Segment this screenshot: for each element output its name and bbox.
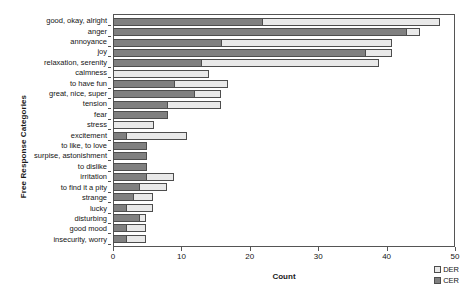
x-axis-tick-label: 40 bbox=[382, 252, 391, 261]
bar-segment-der bbox=[201, 59, 379, 67]
y-axis-tick-label: irritation bbox=[0, 173, 111, 181]
bar-segment-cer bbox=[113, 18, 263, 26]
bar-segment-cer bbox=[113, 173, 147, 181]
bar-segment-der bbox=[262, 18, 440, 26]
y-axis-tick-mark bbox=[108, 77, 111, 78]
y-axis-tick-label: good, okay, alright bbox=[0, 17, 111, 25]
y-axis-tick-label: to have fun bbox=[0, 80, 111, 88]
legend-swatch bbox=[434, 266, 441, 273]
x-axis-ticks: 01020304050 bbox=[113, 247, 455, 269]
bar-segment-cer bbox=[113, 224, 127, 232]
bar-segment-der bbox=[406, 28, 420, 36]
y-axis-tick-mark bbox=[108, 223, 111, 224]
bar-row bbox=[114, 28, 454, 36]
bar-segment-cer bbox=[113, 204, 127, 212]
y-axis-tick-label: good mood bbox=[0, 225, 111, 233]
y-axis-tick-label: disturbing bbox=[0, 215, 111, 223]
legend-label: DER bbox=[443, 265, 459, 274]
x-axis-tick-label: 0 bbox=[111, 252, 115, 261]
bar-row bbox=[114, 39, 454, 47]
bar-row bbox=[114, 183, 454, 191]
bar-row bbox=[114, 152, 454, 160]
plot-area bbox=[113, 14, 455, 247]
y-axis-tick-mark bbox=[108, 25, 111, 26]
x-axis-tick-mark bbox=[455, 247, 456, 251]
bar-segment-cer bbox=[113, 214, 140, 222]
y-axis-tick-labels: good, okay, alrightangerannoyancejoyrela… bbox=[0, 14, 111, 247]
legend-swatch bbox=[434, 277, 441, 284]
y-axis-tick-mark bbox=[108, 36, 111, 37]
legend: DERCER bbox=[434, 265, 459, 285]
x-axis-tick-mark bbox=[181, 247, 182, 251]
legend-item: DER bbox=[434, 265, 459, 274]
bar-chart: Free Response Categories good, okay, alr… bbox=[0, 0, 467, 293]
y-axis-tick-mark bbox=[108, 129, 111, 130]
y-axis-tick-label: surpise, astonishment bbox=[0, 152, 111, 160]
legend-item: CER bbox=[434, 276, 459, 285]
y-axis-tick-label: joy bbox=[0, 48, 111, 56]
y-axis-tick-label: insecurity, worry bbox=[0, 236, 111, 244]
x-axis-tick-mark bbox=[113, 247, 114, 251]
y-axis-tick-mark bbox=[108, 140, 111, 141]
bar-segment-der bbox=[221, 39, 392, 47]
bar-row bbox=[114, 111, 454, 119]
y-axis-tick-label: to like, to love bbox=[0, 142, 111, 150]
x-axis-tick-label: 20 bbox=[245, 252, 254, 261]
y-axis-tick-mark bbox=[108, 119, 111, 120]
y-axis-tick-mark bbox=[108, 181, 111, 182]
bar-segment-der bbox=[139, 183, 166, 191]
bar-row bbox=[114, 193, 454, 201]
bar-segment-cer bbox=[113, 152, 147, 160]
bar-rows bbox=[114, 15, 454, 246]
bar-row bbox=[114, 70, 454, 78]
x-axis-tick-label: 50 bbox=[451, 252, 460, 261]
y-axis-tick-mark bbox=[108, 202, 111, 203]
bar-row bbox=[114, 80, 454, 88]
x-axis-tick-label: 10 bbox=[177, 252, 186, 261]
y-axis-tick-mark bbox=[108, 67, 111, 68]
bar-row bbox=[114, 173, 454, 181]
y-axis-tick-mark bbox=[108, 244, 111, 245]
bar-segment-cer bbox=[113, 142, 147, 150]
bar-row bbox=[114, 214, 454, 222]
y-axis-tick-label: to dislike bbox=[0, 163, 111, 171]
x-axis-title: Count bbox=[113, 272, 455, 281]
bar-segment-cer bbox=[113, 111, 168, 119]
y-axis-tick-mark bbox=[108, 171, 111, 172]
bar-segment-der bbox=[194, 90, 221, 98]
bar-segment-der bbox=[139, 214, 146, 222]
bar-segment-der bbox=[174, 80, 229, 88]
y-axis-tick-mark bbox=[108, 98, 111, 99]
bar-row bbox=[114, 132, 454, 140]
y-axis-tick-mark bbox=[108, 46, 111, 47]
bar-segment-der bbox=[113, 70, 209, 78]
bar-segment-der bbox=[133, 193, 154, 201]
bar-segment-der bbox=[365, 49, 392, 57]
bar-row bbox=[114, 163, 454, 171]
y-axis-tick-label: tension bbox=[0, 100, 111, 108]
y-axis-tick-mark bbox=[108, 88, 111, 89]
bar-row bbox=[114, 101, 454, 109]
bar-segment-cer bbox=[113, 39, 222, 47]
bar-row bbox=[114, 49, 454, 57]
bar-row bbox=[114, 235, 454, 243]
bar-segment-cer bbox=[113, 49, 366, 57]
bar-segment-cer bbox=[113, 101, 168, 109]
bar-segment-cer bbox=[113, 183, 140, 191]
y-axis-tick-mark bbox=[108, 213, 111, 214]
y-axis-tick-label: strange bbox=[0, 194, 111, 202]
x-axis-tick-label: 30 bbox=[314, 252, 323, 261]
bar-segment-der bbox=[126, 224, 147, 232]
bar-row bbox=[114, 121, 454, 129]
bar-segment-cer bbox=[113, 193, 134, 201]
bar-segment-der bbox=[126, 132, 188, 140]
bar-segment-cer bbox=[113, 90, 195, 98]
bar-segment-cer bbox=[113, 59, 202, 67]
y-axis-tick-label: to find it a pity bbox=[0, 184, 111, 192]
y-axis-tick-label: annoyance bbox=[0, 38, 111, 46]
bar-row bbox=[114, 204, 454, 212]
bar-row bbox=[114, 224, 454, 232]
bar-segment-cer bbox=[113, 80, 175, 88]
y-axis-tick-label: stress bbox=[0, 121, 111, 129]
bar-row bbox=[114, 59, 454, 67]
